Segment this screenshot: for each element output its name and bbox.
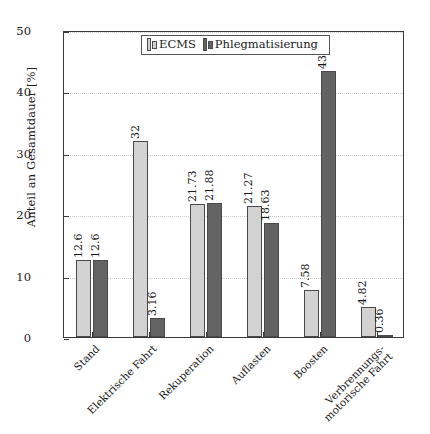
bar-value-text: 12.6 bbox=[73, 233, 84, 258]
y-tick-label: 40 bbox=[0, 87, 31, 99]
gridline bbox=[64, 32, 403, 33]
bar-phleg: 21.88 bbox=[207, 203, 222, 337]
y-tick-mark bbox=[64, 32, 69, 33]
legend-label-phlegmatisierung: Phlegmatisierung bbox=[215, 39, 324, 51]
legend-entry-phlegmatisierung: Phlegmatisierung bbox=[203, 38, 324, 51]
x-tick-mark bbox=[149, 332, 150, 337]
bar-group: 12.612.6 bbox=[76, 32, 108, 337]
bar-phleg: 3.16 bbox=[150, 318, 165, 337]
bar-value-text: 21.73 bbox=[187, 170, 198, 202]
bar-group: 21.2718.63 bbox=[247, 32, 279, 337]
x-tick-mark bbox=[320, 332, 321, 337]
y-tick-label: 50 bbox=[0, 26, 31, 38]
chart-legend: ECMS Phlegmatisierung bbox=[141, 35, 330, 55]
legend-label-ecms: ECMS bbox=[159, 39, 202, 51]
bar-value-text: 4.82 bbox=[357, 281, 368, 306]
legend-swatch-icon bbox=[208, 41, 213, 49]
bar-phleg: 43.37 bbox=[321, 71, 336, 337]
bar-value-text: 0.36 bbox=[374, 308, 385, 333]
x-category-line: Stand bbox=[72, 342, 103, 373]
x-category-line: Rekuperation bbox=[156, 342, 215, 401]
bar-phleg: 12.6 bbox=[93, 260, 108, 337]
legend-swatch-icon bbox=[152, 41, 157, 49]
legend-entry-ecms: ECMS bbox=[147, 38, 202, 51]
bar-value-text: 21.27 bbox=[243, 173, 254, 205]
bar-ecms: 12.6 bbox=[76, 260, 91, 337]
x-tick-mark bbox=[92, 332, 93, 337]
legend-swatch-ecms bbox=[147, 38, 157, 51]
legend-swatch-phlegmatisierung bbox=[203, 38, 213, 51]
bar-value-text: 3.16 bbox=[147, 291, 158, 316]
x-tick-mark bbox=[206, 332, 207, 337]
y-tick-mark bbox=[64, 216, 69, 217]
bar-ecms: 21.27 bbox=[247, 206, 262, 337]
bar-value-text: 7.58 bbox=[300, 264, 311, 289]
y-tick-label: 20 bbox=[0, 210, 31, 222]
bar-ecms: 21.73 bbox=[190, 204, 205, 337]
x-category-line: Boosten bbox=[291, 342, 330, 381]
legend-swatch-icon bbox=[203, 38, 207, 51]
x-tick-mark bbox=[377, 332, 378, 337]
y-tick-mark bbox=[64, 93, 69, 94]
y-tick-label: 10 bbox=[0, 272, 31, 284]
bar-ecms: 7.58 bbox=[304, 290, 319, 337]
y-tick-mark bbox=[64, 278, 69, 279]
bar-phleg: 18.63 bbox=[264, 223, 279, 337]
bar-chart: Anteil an Gesamtdauer [%] 01020304050 12… bbox=[0, 0, 430, 434]
y-tick-label: 0 bbox=[0, 333, 31, 345]
y-tick-mark bbox=[64, 339, 69, 340]
gridline bbox=[64, 155, 403, 156]
bar-value-text: 32 bbox=[130, 125, 141, 139]
gridline bbox=[64, 278, 403, 279]
y-tick-mark bbox=[64, 155, 69, 156]
bar-value-text: 21.88 bbox=[204, 169, 215, 201]
y-tick-label: 30 bbox=[0, 149, 31, 161]
x-tick-mark bbox=[263, 332, 264, 337]
legend-swatch-icon bbox=[147, 38, 151, 51]
x-category-line: Auflasten bbox=[229, 342, 273, 386]
bar-group: 7.5843.37 bbox=[304, 32, 336, 337]
bar-value-text: 18.63 bbox=[260, 189, 271, 221]
x-category-line: motorische Fahrt bbox=[305, 351, 394, 434]
bar-group: 323.16 bbox=[133, 32, 165, 337]
bar-value-text: 12.6 bbox=[90, 233, 101, 258]
bar-phleg: 0.36 bbox=[378, 335, 393, 337]
bar-group: 21.7321.88 bbox=[190, 32, 222, 337]
gridline bbox=[64, 93, 403, 94]
plot-area: 01020304050 12.612.6323.1621.7321.8821.2… bbox=[63, 31, 404, 338]
bar-group: 4.820.36 bbox=[361, 32, 393, 337]
gridline bbox=[64, 216, 403, 217]
